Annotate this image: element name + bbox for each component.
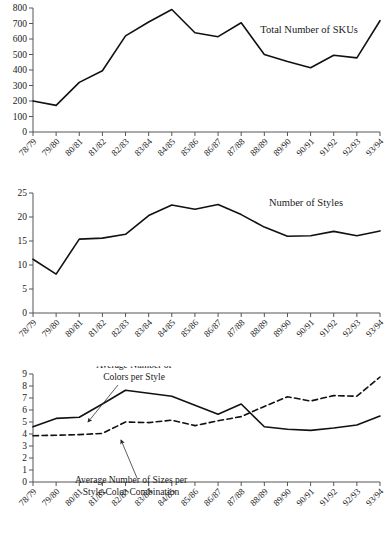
annotation-1: Average Number of Sizes perStyle-Color C… (75, 440, 188, 497)
y-tick-label: 5 (22, 417, 27, 427)
x-tick-label: 78/79 (17, 317, 39, 339)
y-tick-label: 500 (13, 50, 28, 60)
x-tick-label: 88/89 (248, 136, 270, 158)
x-tick-label: 81/82 (86, 317, 108, 339)
x-tick-label: 88/89 (248, 486, 270, 508)
x-tick-label: 91/92 (318, 486, 340, 508)
x-tick-label: 87/88 (225, 486, 247, 508)
y-ticks: 0123456789 (22, 369, 33, 487)
x-tick-label: 89/90 (271, 486, 293, 508)
x-tick-label: 86/87 (202, 317, 224, 339)
data-line-solid-0 (33, 205, 380, 275)
annotation-arrow (88, 385, 118, 422)
x-tick-label: 91/92 (318, 317, 340, 339)
y-tick-label: 5 (22, 284, 27, 294)
series-group (33, 377, 380, 436)
y-tick-label: 2 (22, 453, 27, 463)
chart-panel-styles: 051015202578/7979/8080/8181/8282/8383/84… (0, 185, 390, 366)
y-ticks: 0510152025 (18, 188, 34, 318)
x-tick-label: 89/90 (271, 317, 293, 339)
data-line-dashed-1 (33, 377, 380, 436)
x-tick-label: 78/79 (17, 136, 39, 158)
x-ticks: 78/7979/8080/8181/8282/8383/8484/8585/86… (17, 132, 386, 158)
x-tick-label: 83/84 (133, 317, 155, 339)
y-tick-label: 9 (22, 369, 27, 379)
x-tick-label: 82/83 (109, 136, 131, 158)
x-tick-label: 83/84 (133, 136, 155, 158)
y-tick-label: 6 (22, 405, 27, 415)
x-tick-label: 79/80 (40, 317, 62, 339)
y-tick-label: 0 (22, 127, 27, 137)
y-tick-label: 10 (18, 260, 28, 270)
y-tick-label: 3 (22, 441, 27, 451)
y-tick-label: 15 (18, 236, 28, 246)
x-tick-label: 82/83 (109, 317, 131, 339)
x-tick-label: 85/86 (179, 317, 201, 339)
x-tick-label: 86/87 (202, 136, 224, 158)
x-tick-label: 91/92 (318, 136, 340, 158)
y-tick-label: 20 (18, 212, 28, 222)
y-tick-label: 8 (22, 381, 27, 391)
series-inline-label: Number of Styles (269, 197, 343, 208)
x-tick-label: 93/94 (364, 136, 386, 158)
y-tick-label: 7 (22, 393, 27, 403)
x-tick-label: 79/80 (40, 486, 62, 508)
x-tick-label: 79/80 (40, 136, 62, 158)
annotation-text-line: Style-Color Combination (83, 487, 180, 497)
chart-panel-colors-sizes: 012345678978/7979/8080/8181/8282/8383/84… (0, 366, 390, 550)
x-tick-label: 88/89 (248, 317, 270, 339)
x-tick-label: 84/85 (156, 136, 178, 158)
x-ticks: 78/7979/8080/8181/8282/8383/8484/8585/86… (17, 482, 386, 508)
x-tick-label: 93/94 (364, 486, 386, 508)
x-tick-label: 78/79 (17, 486, 39, 508)
x-tick-label: 92/93 (341, 317, 363, 339)
y-ticks: 0100200300400500600700800 (13, 3, 33, 137)
x-ticks: 78/7979/8080/8181/8282/8383/8484/8585/86… (17, 313, 386, 339)
chart-svg-0: 010020030040050060070080078/7979/8080/81… (0, 0, 390, 185)
x-tick-label: 89/90 (271, 136, 293, 158)
y-tick-label: 100 (13, 112, 28, 122)
x-tick-label: 90/91 (294, 486, 316, 508)
annotation-text-line: Colors per Style (103, 372, 165, 382)
series-group (33, 205, 380, 275)
y-tick-label: 25 (18, 188, 28, 198)
x-tick-label: 92/93 (341, 136, 363, 158)
series-inline-label: Total Number of SKUs (260, 24, 358, 35)
y-tick-label: 700 (13, 19, 28, 29)
y-tick-label: 0 (22, 308, 27, 318)
data-line-solid-0 (33, 390, 380, 430)
x-tick-label: 92/93 (341, 486, 363, 508)
x-tick-label: 87/88 (225, 317, 247, 339)
x-tick-label: 93/94 (364, 317, 386, 339)
axes (33, 193, 380, 313)
x-tick-label: 86/87 (202, 486, 224, 508)
x-tick-label: 85/86 (179, 136, 201, 158)
x-tick-label: 80/81 (63, 136, 85, 158)
chart-panel-skus: 010020030040050060070080078/7979/8080/81… (0, 0, 390, 185)
figure-page: 010020030040050060070080078/7979/8080/81… (0, 0, 390, 550)
y-tick-label: 400 (13, 65, 28, 75)
x-tick-label: 80/81 (63, 317, 85, 339)
x-tick-label: 90/91 (294, 317, 316, 339)
x-tick-label: 81/82 (86, 136, 108, 158)
x-tick-label: 80/81 (63, 486, 85, 508)
y-tick-label: 0 (22, 477, 27, 487)
x-tick-label: 87/88 (225, 136, 247, 158)
y-tick-label: 300 (13, 81, 28, 91)
annotation-arrow (121, 440, 137, 478)
x-tick-label: 90/91 (294, 136, 316, 158)
y-tick-label: 600 (13, 34, 28, 44)
x-tick-label: 84/85 (156, 317, 178, 339)
annotation-text-line: Average Number of Sizes per (75, 475, 188, 485)
x-tick-label: 85/86 (179, 486, 201, 508)
y-tick-label: 200 (13, 96, 28, 106)
y-tick-label: 1 (22, 465, 27, 475)
chart-svg-2: 012345678978/7979/8080/8181/8282/8383/84… (0, 366, 390, 550)
chart-svg-1: 051015202578/7979/8080/8181/8282/8383/84… (0, 185, 390, 366)
annotation-text-line: Average Number of (96, 366, 172, 370)
y-tick-label: 800 (13, 3, 28, 13)
y-tick-label: 4 (22, 429, 27, 439)
